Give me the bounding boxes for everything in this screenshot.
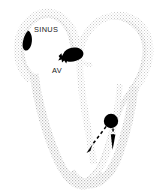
interventricular-septum [79, 56, 94, 164]
heart-conduction-diagram: SINUS AV [0, 0, 164, 191]
av-label: AV [52, 66, 62, 75]
sinus-label: SINUS [34, 25, 58, 34]
right-atrium-wall [79, 15, 150, 95]
diagram-canvas: SINUS AV [0, 0, 164, 191]
ectopic-focus-marker [104, 114, 118, 128]
